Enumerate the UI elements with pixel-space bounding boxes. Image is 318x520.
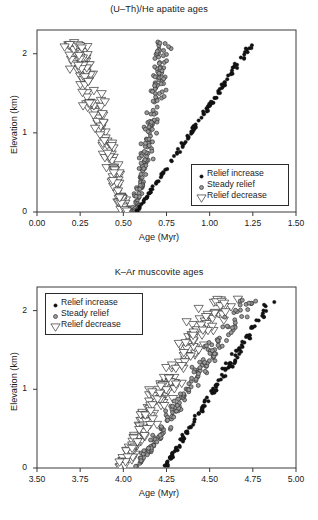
legend-row: Steady relief <box>196 179 283 190</box>
x-tick-label: 3.50 <box>17 474 57 484</box>
panel-apatite: (U–Th)/He apatite ages Age (Myr) Elevati… <box>0 0 318 258</box>
x-tick-label: 4.00 <box>103 474 143 484</box>
x-tick-label: 0.75 <box>147 218 187 228</box>
x-tick-label: 4.50 <box>190 474 230 484</box>
legend-marker-steady_relief-icon <box>50 308 61 319</box>
x-tick-label: 1.50 <box>276 218 316 228</box>
legend-row: Relief decrease <box>50 319 137 330</box>
y-tick-label: 0 <box>5 206 27 216</box>
x-tick-label: 0.50 <box>103 218 143 228</box>
legend-label: Steady relief <box>61 308 109 319</box>
legend-label: Relief increase <box>207 168 264 179</box>
legend-marker-relief_decrease-icon <box>196 190 207 201</box>
y-tick-label: 1 <box>5 127 27 137</box>
legend-label: Relief increase <box>61 297 118 308</box>
x-tick-label: 1.00 <box>190 218 230 228</box>
x-tick-label: 0.25 <box>60 218 100 228</box>
legend-label: Relief decrease <box>207 190 267 201</box>
x-tick-label: 1.25 <box>233 218 273 228</box>
figure-root: (U–Th)/He apatite ages Age (Myr) Elevati… <box>0 0 318 520</box>
y-tick-label: 2 <box>5 305 27 315</box>
x-tick-label: 4.25 <box>147 474 187 484</box>
y-tick-label: 2 <box>5 48 27 58</box>
legend-apatite: Relief increaseSteady reliefRelief decre… <box>191 164 289 206</box>
x-tick-label: 5.00 <box>276 474 316 484</box>
y-axis-title-muscovite: Elevation (km) <box>9 352 19 411</box>
legend-row: Relief increase <box>50 297 137 308</box>
legend-muscovite: Relief increaseSteady reliefRelief decre… <box>45 293 143 335</box>
legend-marker-relief_increase-icon <box>50 297 61 308</box>
legend-marker-relief_increase-icon <box>196 168 207 179</box>
x-tick-label: 3.75 <box>60 474 100 484</box>
y-axis-title-apatite: Elevation (km) <box>9 95 19 154</box>
y-tick-label: 1 <box>5 383 27 393</box>
legend-row: Relief increase <box>196 168 283 179</box>
x-axis-title-apatite: Age (Myr) <box>0 232 318 242</box>
legend-label: Relief decrease <box>61 319 121 330</box>
x-axis-title-muscovite: Age (Myr) <box>0 488 318 498</box>
legend-row: Steady relief <box>50 308 137 319</box>
y-tick-label: 0 <box>5 462 27 472</box>
x-tick-label: 4.75 <box>233 474 273 484</box>
x-tick-label: 0.00 <box>17 218 57 228</box>
legend-row: Relief decrease <box>196 190 283 201</box>
series-relief_decrease <box>60 40 132 216</box>
legend-marker-relief_decrease-icon <box>50 319 61 330</box>
legend-label: Steady relief <box>207 179 255 190</box>
panel-muscovite: K–Ar muscovite ages Age (Myr) Elevation … <box>0 258 318 520</box>
legend-marker-steady_relief-icon <box>196 179 207 190</box>
